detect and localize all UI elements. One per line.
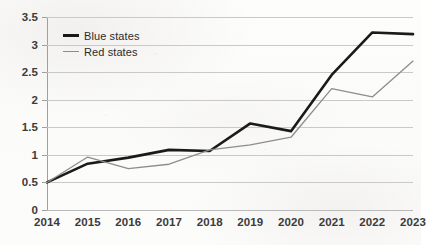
legend-item-blue-states: Blue states (63, 29, 140, 42)
y-tick-label: 1 (32, 149, 39, 161)
legend-item-label: Red states (84, 46, 138, 58)
y-tick-mark (42, 72, 47, 73)
x-tick-label: 2016 (115, 216, 141, 228)
y-tick-label: 2.5 (22, 66, 38, 78)
x-tick-label: 2018 (197, 216, 223, 228)
y-tick-mark (42, 182, 47, 183)
x-tick-label: 2019 (237, 216, 263, 228)
x-tick-label: 2022 (359, 216, 385, 228)
y-tick-mark (42, 155, 47, 156)
y-tick-mark (42, 100, 47, 101)
x-tick-label: 2020 (278, 216, 304, 228)
x-tick-label: 2014 (34, 216, 60, 228)
legend-line-swatch-icon (63, 34, 79, 37)
x-tick-label: 2023 (400, 216, 426, 228)
x-tick-label: 2021 (319, 216, 345, 228)
legend-line-swatch-icon (63, 51, 79, 52)
series-line-red-states (47, 61, 413, 182)
legend-item-label: Blue states (84, 30, 140, 42)
y-tick-mark (42, 17, 47, 18)
y-tick-mark (42, 45, 47, 46)
y-tick-label: 1.5 (22, 121, 38, 133)
y-tick-label: 0 (32, 204, 39, 216)
y-tick-label: 3.5 (22, 11, 38, 23)
y-tick-mark (42, 210, 47, 211)
y-tick-label: 3 (32, 39, 39, 51)
y-tick-label: 0.5 (22, 176, 38, 188)
chart-legend: Blue statesRed states (63, 29, 140, 58)
gridline (47, 210, 413, 211)
y-axis-labels: 00.511.522.533.5 (0, 0, 38, 245)
x-tick-label: 2017 (156, 216, 182, 228)
x-tick-label: 2015 (75, 216, 101, 228)
legend-item-red-states: Red states (63, 45, 140, 58)
y-tick-mark (42, 127, 47, 128)
y-tick-label: 2 (32, 94, 39, 106)
